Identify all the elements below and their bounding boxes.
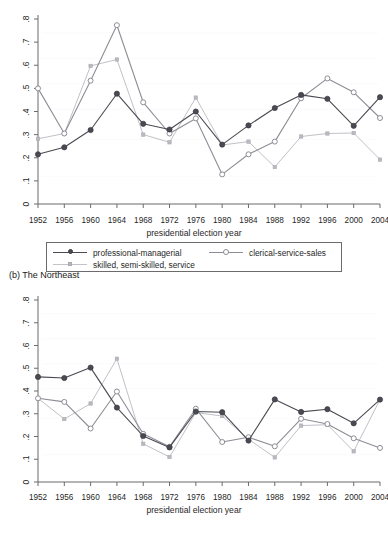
cropped-title-strip [0, 0, 388, 9]
legend-line-swatch [209, 247, 243, 258]
legend-label: skilled, semi-skilled, service [87, 260, 195, 270]
subfigure-caption-b: (b) The Northeast [9, 270, 79, 280]
panel-a-svg [0, 9, 388, 221]
legend-line-swatch [53, 259, 87, 270]
series-skilled-semi-skilled-service [36, 58, 381, 169]
panel-a-legend: professional-managerial clerical-service… [46, 242, 342, 272]
open-circle-icon [223, 249, 229, 255]
figure-two-panel-line-charts: 0.1.2.3.4.5.6.7.8 1952195619601964196819… [0, 0, 388, 548]
series-clerical-sales [36, 389, 383, 450]
x-tick-label: 2004 [365, 215, 388, 227]
panel-a-chart: 0.1.2.3.4.5.6.7.8 1952195619601964196819… [0, 9, 388, 267]
legend-item-clerical-service-sales[interactable]: clerical-service-sales [209, 246, 326, 259]
filled-circle-icon [68, 249, 73, 254]
x-tick-label: 2004 [365, 492, 388, 504]
panel-b-svg [0, 292, 388, 498]
panel-b-x-axis-labels: 1952195619601964196819721976198019841988… [0, 492, 388, 504]
legend-label: clerical-service-sales [243, 248, 326, 258]
panel-a-x-axis-labels: 1952195619601964196819721976198019841988… [0, 215, 388, 227]
legend-label: professional-managerial [87, 248, 182, 258]
panel-b-chart: 0.1.2.3.4.5.6.7.8 1952195619601964196819… [0, 292, 388, 548]
series-clerical-service-sales [36, 23, 383, 177]
panel-b-x-axis-title: presidential election year [0, 505, 388, 515]
legend-line-swatch [53, 247, 87, 258]
series-professional-managerial [35, 365, 382, 450]
panel-a-x-axis-title: presidential election year [0, 228, 388, 238]
small-square-icon [68, 262, 72, 266]
